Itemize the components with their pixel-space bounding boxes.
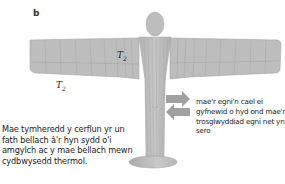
temperature-label-surroundings: T2 bbox=[56, 80, 66, 92]
arrow-right-icon bbox=[166, 91, 190, 107]
equilibrium-caption: Mae tymheredd y cerflun yr un fath bella… bbox=[2, 124, 142, 166]
panel-label: b bbox=[33, 8, 39, 18]
temperature-label-wing: T2 bbox=[117, 50, 127, 62]
arrow-left-icon bbox=[166, 104, 190, 120]
thermal-equilibrium-figure: b T2 T2 Mae tymheredd y cerflun yr un fa… bbox=[0, 0, 285, 184]
statue-head bbox=[146, 12, 164, 36]
energy-exchange-caption: mae'r egni'n cael ei gyfnewid o hyd ond … bbox=[196, 97, 285, 136]
temperature-subscript: 2 bbox=[62, 85, 66, 92]
right-wing bbox=[170, 38, 281, 79]
temperature-subscript: 2 bbox=[123, 55, 127, 62]
